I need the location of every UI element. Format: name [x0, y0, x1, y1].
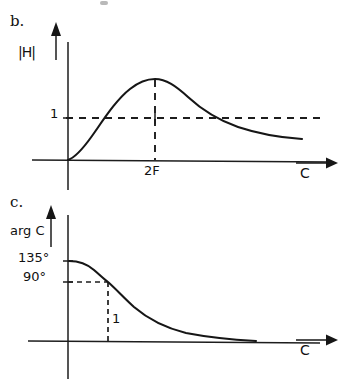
x-axis-line-c [28, 341, 320, 343]
c-vector-arrow-head-b [326, 158, 338, 169]
magnitude-curve [68, 79, 302, 160]
x-axis-line [32, 160, 332, 162]
phase-curve [69, 261, 256, 341]
plot-svg-magnitude [0, 0, 348, 190]
scan-artifact-speck [100, 1, 108, 5]
c-vector-arrow-head-c [326, 335, 338, 346]
panel-phase-response: c. arg C 135° 90° 1 C [0, 185, 348, 379]
figure-container: b. |H| 1 2F C [0, 0, 348, 379]
panel-magnitude-response: b. |H| 1 2F C [0, 0, 348, 190]
y-axis-arrow-head [51, 22, 61, 36]
plot-svg-phase [0, 185, 348, 379]
y-axis-arrow-head-c [46, 205, 56, 219]
